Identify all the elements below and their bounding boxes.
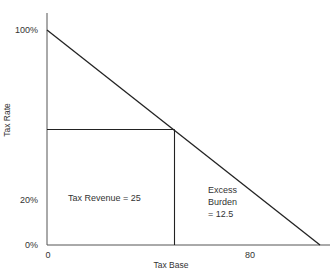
x-tick-label: 80 <box>245 250 255 260</box>
x-axis-label: Tax Base <box>154 260 189 270</box>
y-axis-label: Tax Rate <box>2 103 12 137</box>
y-tick-label: 100% <box>15 25 38 35</box>
tax-revenue-label: Tax Revenue = 25 <box>68 193 141 203</box>
excess-burden-label: ExcessBurden= 12.5 <box>208 185 238 219</box>
y-tick-label: 20% <box>20 195 38 205</box>
excess-burden-line: = 12.5 <box>208 209 233 219</box>
excess-burden-line: Burden <box>208 197 237 207</box>
excess-burden-line: Excess <box>208 185 238 195</box>
demand-curve-line <box>47 30 320 245</box>
chart: 0%20%100% 080 Tax Rate Tax Base Tax Reve… <box>0 0 336 272</box>
tax-revenue-line: Tax Revenue = 25 <box>68 193 141 203</box>
y-tick-label: 0% <box>25 240 38 250</box>
x-tick-label: 0 <box>45 250 50 260</box>
